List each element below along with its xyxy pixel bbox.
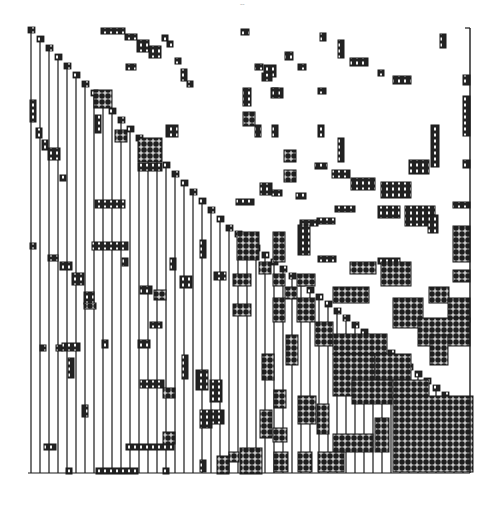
sparse-block <box>162 35 168 41</box>
dense-block <box>453 226 470 262</box>
sparse-block <box>338 138 344 162</box>
diagonal-entry <box>289 273 296 279</box>
sparse-block <box>440 34 446 48</box>
sparse-block <box>236 199 254 205</box>
diagonal-entry <box>46 45 53 51</box>
diagonal-entry <box>316 294 323 300</box>
dense-block <box>333 334 387 354</box>
sparse-block <box>393 76 411 84</box>
diagonal-entry <box>172 171 179 177</box>
dense-block <box>393 380 429 398</box>
sparse-block <box>138 163 162 171</box>
sparse-block <box>101 28 125 34</box>
dense-block <box>298 452 312 472</box>
dense-block <box>273 232 285 262</box>
dense-block <box>163 432 175 444</box>
sparse-block <box>296 193 306 199</box>
diagonal-entry <box>82 81 89 87</box>
sparse-block <box>381 182 411 198</box>
diagonal-entry <box>118 117 125 123</box>
sparse-block <box>60 262 72 270</box>
sparse-block <box>298 64 306 70</box>
dense-block <box>273 298 285 322</box>
sparse-block <box>335 206 355 212</box>
sparse-block <box>272 88 278 96</box>
dense-block <box>317 404 329 434</box>
dense-block <box>350 262 376 274</box>
sparse-block <box>338 40 344 58</box>
sparse-block <box>140 380 164 388</box>
dense-block <box>240 448 262 474</box>
diagonal-entry <box>307 287 314 293</box>
sparse-block <box>30 243 36 249</box>
sparse-block <box>68 358 74 378</box>
sparse-block <box>351 178 375 190</box>
dense-block <box>260 410 272 438</box>
sparse-block <box>126 64 136 70</box>
dense-block <box>381 262 411 286</box>
dense-block <box>333 434 373 452</box>
sparse-block <box>428 215 438 233</box>
sparse-block <box>298 225 310 255</box>
dense-block <box>154 290 166 300</box>
sparse-block <box>243 88 251 106</box>
sparse-block <box>320 33 326 41</box>
dense-block <box>297 274 315 286</box>
sparse-block <box>44 444 56 450</box>
diagonal-entry <box>262 252 269 258</box>
sparse-block <box>150 322 162 328</box>
dense-block <box>233 274 251 286</box>
dense-block <box>138 138 162 162</box>
sparse-block <box>72 273 84 285</box>
dense-block <box>352 380 392 404</box>
sparse-block <box>332 170 350 178</box>
sparse-block <box>196 370 208 390</box>
sparse-block <box>181 69 187 81</box>
dense-block <box>298 396 316 424</box>
sparse-block <box>378 70 384 76</box>
sparse-block <box>140 286 152 294</box>
dense-block <box>375 418 389 452</box>
sparse-block <box>180 276 192 288</box>
dense-block <box>284 170 296 182</box>
sparse-block <box>463 75 470 85</box>
diagonal-entry <box>334 308 341 314</box>
dense-block <box>375 354 411 380</box>
dense-block <box>84 303 96 309</box>
sparse-block <box>272 190 282 196</box>
dense-block <box>259 262 271 274</box>
sparse-block <box>272 125 278 137</box>
sparse-block <box>137 40 149 52</box>
diagonal-entry <box>208 207 215 213</box>
dense-block <box>333 287 369 303</box>
diagonal-entry <box>37 36 44 42</box>
dense-block <box>430 335 448 365</box>
sparse-block <box>30 100 36 122</box>
sparse-block <box>82 405 88 417</box>
diagonal-entry <box>217 216 224 222</box>
sparse-block <box>122 258 128 266</box>
sparse-block <box>453 202 470 208</box>
diagonal-entry <box>127 126 134 132</box>
sparse-block <box>214 272 226 280</box>
sparse-block <box>138 340 150 348</box>
diagonal-entry <box>352 322 359 328</box>
diagonal-entry <box>325 301 332 307</box>
diagonal-entry <box>109 108 116 114</box>
sparse-block <box>42 140 48 150</box>
sparse-block <box>187 81 193 87</box>
sparse-block <box>255 125 261 137</box>
sparse-block <box>200 460 206 472</box>
diagonal-entry <box>55 54 62 60</box>
sparse-block <box>175 58 181 64</box>
sparse-block <box>200 410 212 428</box>
sparse-block <box>431 125 439 167</box>
sparse-block <box>463 96 470 136</box>
sparse-block <box>48 255 58 261</box>
sparse-block <box>378 206 400 218</box>
sparse-block <box>182 355 188 379</box>
dense-block <box>217 456 229 474</box>
sparse-block <box>102 340 108 348</box>
sparse-block <box>92 242 128 250</box>
sparse-block <box>149 46 161 58</box>
